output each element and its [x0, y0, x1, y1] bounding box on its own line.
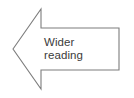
- diagram-canvas: Wider reading: [0, 0, 134, 98]
- arrow-shape-svg: [0, 0, 134, 98]
- left-arrow-icon[interactable]: [13, 9, 119, 89]
